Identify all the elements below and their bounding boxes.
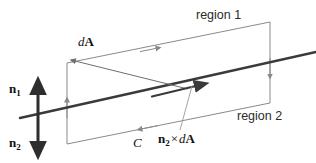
- n2-cross-dA-label: n2×dA: [158, 132, 195, 148]
- n1-label-subscript: 1: [16, 88, 21, 98]
- n2-label-subscript: 2: [16, 142, 21, 152]
- region-2-label: region 2: [237, 110, 282, 123]
- dA-label: dA: [78, 35, 94, 48]
- dA-label-A: A: [85, 34, 94, 49]
- cross-product-symbol: ×: [170, 131, 179, 146]
- contour-C-label: C: [133, 136, 142, 149]
- contour-loop-C: [67, 22, 270, 144]
- n1-normal-label: n1: [9, 82, 21, 98]
- n2-cross-label-A: A: [186, 131, 195, 146]
- loop-direction-arrow-top: [140, 48, 160, 52]
- loop-direction-arrow-bottom: [138, 126, 158, 130]
- contour-C-label-text: C: [133, 135, 142, 150]
- n2-normal-label: n2: [9, 136, 21, 152]
- n2-cross-dA-leader-line: [180, 86, 192, 130]
- loop-edge-top: [67, 22, 270, 63]
- region-1-label: region 1: [196, 9, 241, 22]
- dA-vector-arrow: [71, 60, 188, 89]
- boundary-condition-figure: region 1 region 2 dA n1 n2 C n2×dA: [0, 0, 316, 163]
